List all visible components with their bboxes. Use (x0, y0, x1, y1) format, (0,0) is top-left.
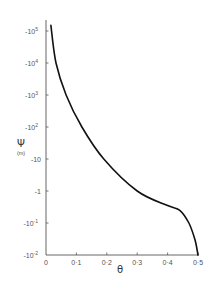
y-tick-label: -102 (25, 122, 38, 131)
x-tick-label: 0·3 (132, 259, 142, 266)
y-tick-label: -105 (25, 26, 38, 35)
x-tick-label: 0·5 (193, 259, 203, 266)
x-tick-label: 0 (44, 259, 48, 266)
y-tick-label: -104 (25, 58, 38, 67)
y-axis-title: Ψ (17, 138, 25, 149)
y-tick-label: -103 (25, 90, 38, 99)
axes: 00·10·20·30·40·5 -105-104-103-102-10-1-1… (23, 20, 203, 266)
y-ticks: -105-104-103-102-10-1-10-1-10-2 (23, 26, 48, 259)
x-axis-title: θ (117, 264, 123, 275)
y-tick-label: -10-1 (23, 218, 38, 227)
y-tick-label: -10-2 (23, 250, 38, 259)
x-tick-label: 0·4 (163, 259, 173, 266)
chart-canvas: 00·10·20·30·40·5 -105-104-103-102-10-1-1… (0, 0, 216, 291)
x-tick-label: 0·1 (71, 259, 81, 266)
data-curve (51, 25, 198, 255)
x-tick-label: 0·2 (102, 259, 112, 266)
y-axis-unit: (m) (17, 150, 25, 156)
y-tick-label: -1 (35, 188, 41, 195)
x-ticks: 00·10·20·30·40·5 (44, 253, 203, 267)
y-tick-label: -10 (31, 156, 41, 163)
